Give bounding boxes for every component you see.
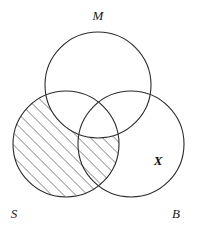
set-label-m: M: [92, 8, 105, 23]
element-x-mark: X: [153, 153, 163, 168]
hatch-fill: [0, 0, 197, 229]
venn-diagram: M S B X: [0, 0, 197, 229]
set-label-s: S: [11, 206, 18, 221]
shaded-region-s-minus-m: [0, 0, 197, 229]
set-label-b: B: [172, 206, 180, 221]
